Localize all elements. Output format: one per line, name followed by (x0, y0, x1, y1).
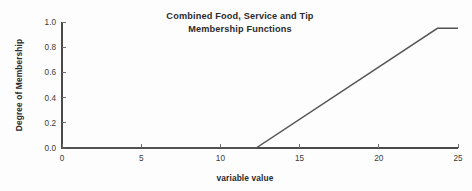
y-tick-label-0: 0.0 (45, 144, 57, 153)
x-tick-label-0: 0 (60, 154, 65, 163)
y-tick-label-3: 0.6 (45, 68, 57, 77)
x-tick-label-5: 25 (453, 154, 463, 163)
chart-screenshot: Combined Food, Service and Tip Membershi… (0, 0, 472, 191)
x-axis-label: variable value (217, 173, 274, 183)
x-tick-label-2: 10 (216, 154, 226, 163)
chart-title-line-1: Combined Food, Service and Tip (166, 11, 314, 21)
y-tick-label-2: 0.4 (45, 94, 57, 103)
chart-title-line-2: Membership Functions (188, 24, 292, 34)
x-tick-label-3: 15 (295, 154, 305, 163)
y-tick-label-5: 1.0 (45, 18, 57, 27)
x-tick-label-1: 5 (139, 154, 144, 163)
y-tick-label-4: 0.8 (45, 43, 57, 52)
x-tick-label-4: 20 (374, 154, 384, 163)
y-axis-label: Degree of Membership (14, 39, 24, 131)
membership-function-chart: Combined Food, Service and Tip Membershi… (0, 0, 472, 191)
y-tick-label-1: 0.2 (45, 119, 57, 128)
